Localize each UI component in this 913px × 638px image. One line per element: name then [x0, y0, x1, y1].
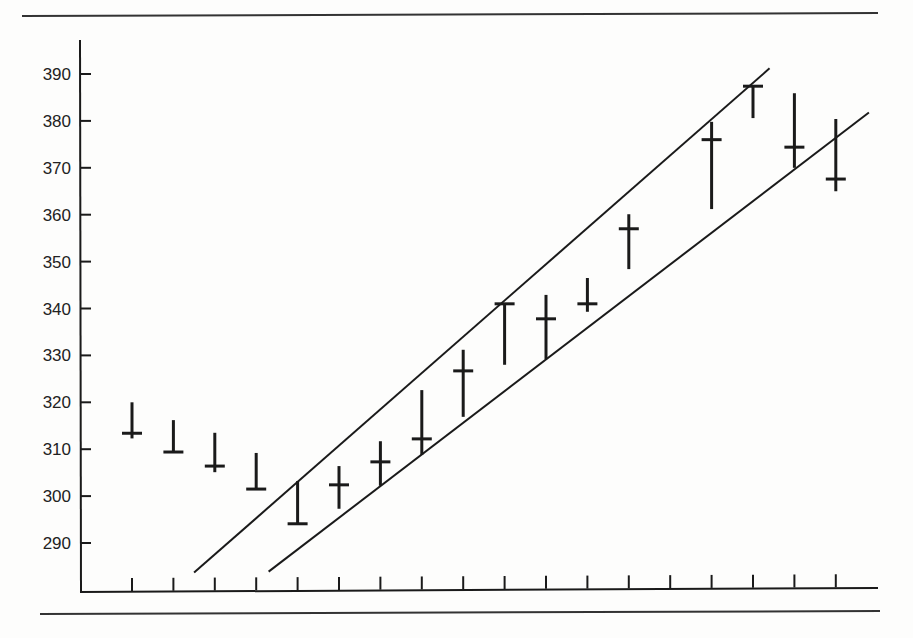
hlc-bar [577, 278, 597, 312]
hlc-bar [412, 390, 432, 455]
y-axis-ticks: 290300310320330340350360370380390 [43, 65, 91, 553]
hlc-bar [743, 86, 763, 118]
hlc-bar [495, 304, 515, 365]
hlc-bar [122, 402, 142, 438]
y-tick-label: 310 [43, 440, 71, 459]
price-bars [122, 86, 846, 524]
top-rule [22, 13, 878, 16]
upper-channel-line [194, 68, 769, 572]
y-tick-label: 390 [43, 65, 71, 84]
hlc-bar [329, 466, 349, 509]
y-tick-label: 290 [43, 534, 71, 553]
y-tick-label: 360 [43, 206, 71, 225]
hlc-bar [246, 453, 266, 489]
hlc-bar [826, 119, 846, 191]
hlc-bar [163, 420, 183, 452]
hlc-bar [619, 214, 639, 269]
y-tick-label: 330 [43, 346, 71, 365]
y-tick-label: 320 [43, 393, 71, 412]
hlc-bar [536, 295, 556, 359]
y-tick-label: 350 [43, 253, 71, 272]
bottom-rule [40, 611, 880, 614]
hlc-bar [784, 93, 804, 168]
y-tick-label: 380 [43, 112, 71, 131]
hlc-bar [370, 441, 390, 486]
y-axis-line [80, 40, 81, 592]
hlc-bar [453, 350, 473, 417]
y-tick-label: 370 [43, 159, 71, 178]
axes [80, 40, 878, 592]
hlc-bar [702, 122, 722, 209]
y-tick-label: 300 [43, 487, 71, 506]
hlc-bar [205, 433, 225, 472]
y-tick-label: 340 [43, 300, 71, 319]
hlc-chart: 290300310320330340350360370380390 [0, 0, 913, 638]
trend-channel [194, 68, 869, 572]
x-axis-line [80, 588, 878, 592]
lower-channel-line [269, 112, 869, 571]
